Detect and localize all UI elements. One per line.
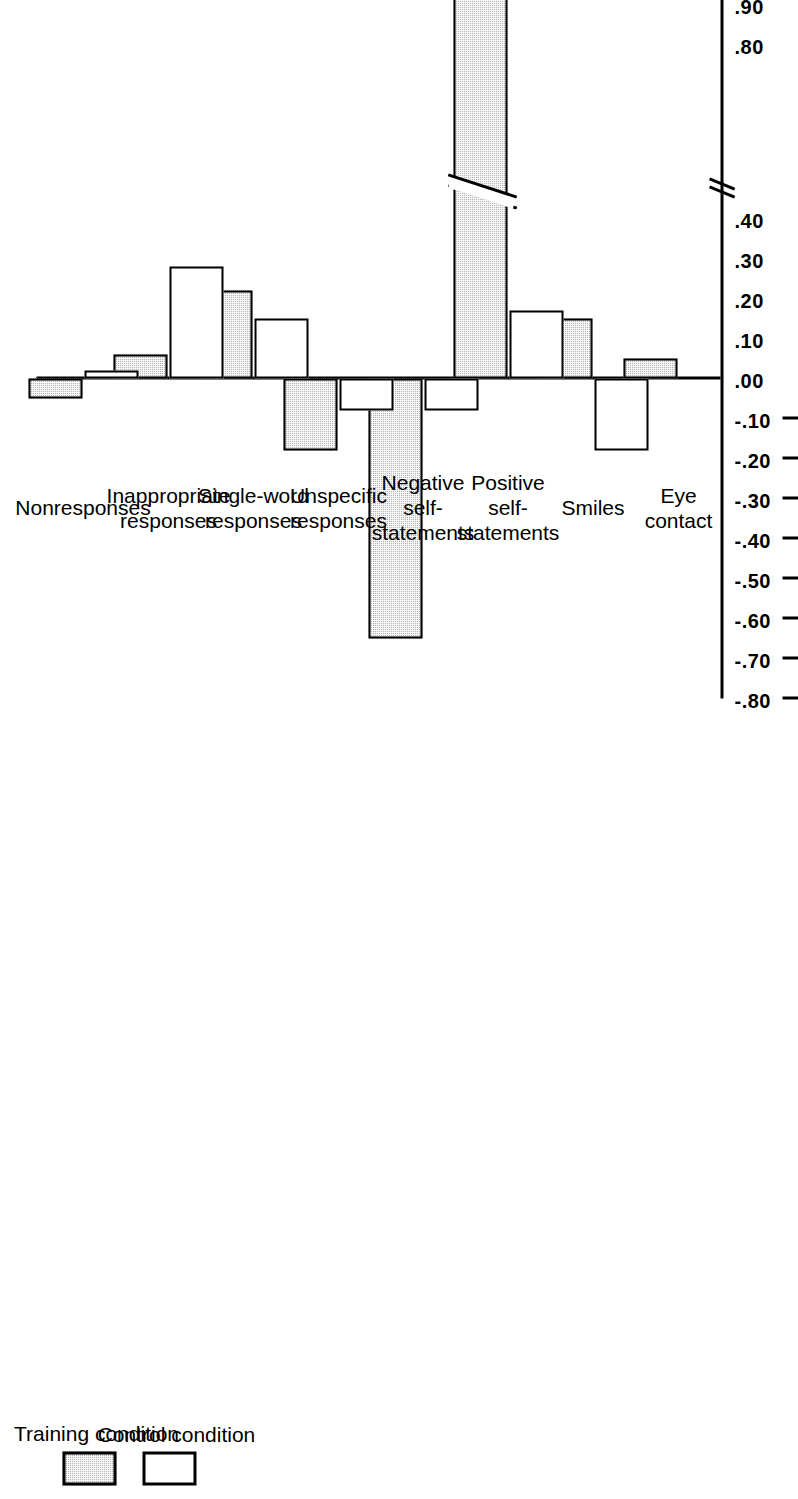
legend-item-control: Control condition [142,1335,196,1485]
axis-tick-label: -.70 [734,649,770,672]
bar-control [594,378,648,450]
category-label-line: Nonresponses [0,495,178,520]
bar-training [623,358,677,378]
axis-tick-label: -.20 [734,449,770,472]
value-axis-line [720,0,723,698]
bar-control [509,310,563,378]
axis-tick-mark [782,417,798,420]
axis-tick-label: .20 [734,289,763,312]
legend-swatch-control [142,1451,196,1485]
axis-tick-label: .30 [734,249,763,272]
axis-tick-mark [782,537,798,540]
axis-tick-mark [782,617,798,620]
axis-break-marker [711,174,733,200]
legend-label-control: Control condition [97,1422,255,1446]
axis-tick-label: -.60 [734,609,770,632]
axis-tick-label: -.50 [734,569,770,592]
axis-tick-label: -.10 [734,409,770,432]
legend-item-training: Training condition [62,1335,116,1485]
axis-tick-mark [782,457,798,460]
axis-tick-label: -.80 [734,689,770,712]
bar-training [283,378,337,450]
bar-control [339,378,393,410]
bar-control [169,266,223,378]
chart-legend: Training condition Control condition [62,1335,222,1485]
chart-stage: 1.101.00.90.80.40.30.20.10.00-.10-.20-.3… [0,0,798,1499]
legend-swatch-training [62,1451,116,1485]
bar-control [254,318,308,378]
axis-tick-mark [782,497,798,500]
axis-tick-label: .80 [734,35,763,58]
category-label: Nonresponses [0,495,178,520]
axis-tick-label: .10 [734,329,763,352]
axis-tick-label: .90 [734,0,763,18]
axis-tick-mark [782,657,798,660]
bar-training [453,0,507,378]
axis-tick-label: .40 [734,209,763,232]
bar-control [424,378,478,410]
bar-control [84,370,138,378]
bar-training [28,378,82,398]
axis-tick-mark [782,697,798,700]
bar-chart-plot: 1.101.00.90.80.40.30.20.10.00-.10-.20-.3… [0,0,798,1499]
axis-tick-label: .00 [734,369,763,392]
axis-tick-mark [782,577,798,580]
